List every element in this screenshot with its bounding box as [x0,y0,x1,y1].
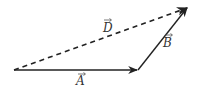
vector-a-label-group: A [75,73,86,88]
vector-a-label: A [75,74,85,87]
vector-d-arrow [14,8,187,70]
vector-b-label-group: B [162,34,173,51]
vector-d-label-group: D [102,19,113,36]
vector-addition-diagram: D B A [0,0,199,87]
vector-d-label: D [102,21,113,35]
vector-b-label: B [162,36,172,50]
